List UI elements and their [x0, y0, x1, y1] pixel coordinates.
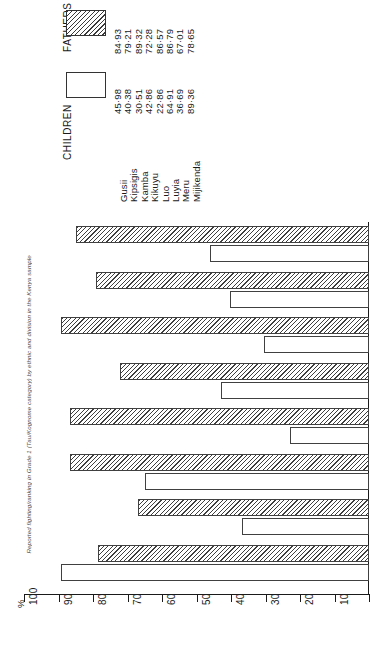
legend-label-children: CHILDREN — [62, 104, 73, 160]
axis-tick-0 — [369, 594, 370, 602]
axis-tick-40 — [231, 594, 232, 602]
bar-fathers-luo — [70, 408, 369, 425]
category-label-kikuyu: Kikuyu — [149, 173, 160, 202]
category-label-kipsigis: Kipsigis — [128, 168, 139, 202]
bar-children-meru — [242, 518, 369, 535]
axis-tick-label-90: 90 — [63, 593, 74, 605]
axis-tick-label-60: 60 — [166, 593, 177, 605]
axis-tick-label-10: 10 — [339, 593, 350, 605]
axis-tick-label-40: 40 — [235, 593, 246, 605]
axis-tick-70 — [128, 594, 129, 602]
value-fathers-mijikenda: 78·65 — [185, 29, 196, 54]
axis-tick-label-20: 20 — [304, 593, 315, 605]
legend-swatch-children — [66, 72, 106, 98]
value-children-mijikenda: 89·36 — [185, 89, 196, 114]
bar-fathers-mijikenda — [98, 545, 369, 562]
axis-tick-90 — [59, 594, 60, 602]
bar-fathers-luyia — [70, 454, 369, 471]
category-label-meru: Meru — [180, 180, 191, 202]
axis-tick-label-100: 100 — [28, 587, 39, 605]
value-children-luo: 22·86 — [154, 89, 165, 114]
axis-tick-50 — [197, 594, 198, 602]
value-axis: % 1009080706050403020100 — [24, 594, 369, 648]
axis-tick-80 — [93, 594, 94, 602]
value-children-kikuyu: 42·86 — [143, 89, 154, 114]
legend-swatch-fathers — [66, 10, 106, 36]
plot-area — [24, 222, 369, 594]
bar-fathers-kipsigis — [96, 272, 369, 289]
bar-fathers-gusii — [76, 226, 369, 243]
bar-children-mijikenda — [61, 564, 369, 581]
value-fathers-kikuyu: 72·28 — [143, 29, 154, 54]
axis-tick-30 — [266, 594, 267, 602]
bar-children-kamba — [264, 336, 369, 353]
bar-children-kikuyu — [221, 382, 369, 399]
axis-tick-20 — [300, 594, 301, 602]
value-children-kipsigis: 40·38 — [122, 89, 133, 114]
axis-tick-60 — [162, 594, 163, 602]
bar-fathers-kikuyu — [120, 363, 369, 380]
axis-tick-10 — [335, 594, 336, 602]
axis-tick-label-50: 50 — [201, 593, 212, 605]
bar-children-luyia — [145, 473, 369, 490]
value-fathers-meru: 67·01 — [174, 29, 185, 54]
value-children-meru: 36·69 — [174, 89, 185, 114]
axis-tick-label-30: 30 — [270, 593, 281, 605]
category-label-luo: Luo — [160, 186, 171, 202]
value-fathers-luo: 86·57 — [154, 29, 165, 54]
bar-children-kipsigis — [230, 291, 369, 308]
bar-children-luo — [290, 427, 369, 444]
axis-tick-label-70: 70 — [132, 593, 143, 605]
value-fathers-kipsigis: 79·21 — [122, 29, 133, 54]
bar-children-gusii — [210, 245, 369, 262]
axis-tick-label-80: 80 — [97, 593, 108, 605]
bar-fathers-kamba — [61, 317, 369, 334]
category-label-mijikenda: Mijikenda — [191, 161, 202, 202]
axis-tick-100 — [24, 594, 25, 602]
bar-fathers-meru — [138, 499, 369, 516]
